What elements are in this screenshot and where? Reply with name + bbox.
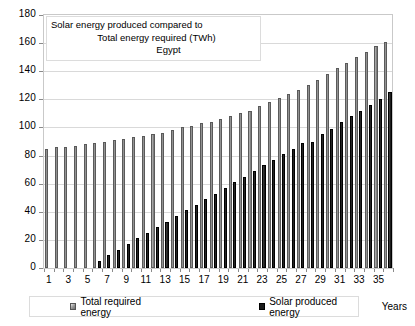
bar-group [296,15,306,268]
x-axis-tick-label: 9 [116,274,136,285]
x-axis-tick-mark [257,269,258,272]
bar-total-required-energy [374,46,377,268]
bar-solar-produced-energy [224,188,227,268]
bar-solar-produced-energy [117,250,120,268]
bar-total-required-energy [74,146,77,268]
x-axis-tick-mark [131,269,132,272]
bar-total-required-energy [122,139,125,268]
bar-total-required-energy [297,90,300,269]
bar-solar-produced-energy [243,177,246,268]
bar-group [267,15,277,268]
x-axis-tick-mark [325,269,326,272]
x-axis-tick-label: 23 [252,274,272,285]
bar-solar-produced-energy [330,129,333,268]
x-axis-tick-label: 11 [136,274,156,285]
y-axis-tick-mark [39,184,43,185]
chart-legend: Total required energy Solar produced ene… [29,296,359,317]
x-axis-tick-mark [296,269,297,272]
bar-total-required-energy [307,85,310,268]
bar-total-required-energy [336,68,339,268]
y-axis-tick-mark [39,71,43,72]
bar-solar-produced-energy [195,205,198,268]
bar-solar-produced-energy [350,116,353,268]
y-axis-tick-label: 180 [2,9,36,19]
bar-total-required-energy [161,133,164,268]
x-axis-tick-label: 31 [330,274,350,285]
x-axis-tick-mark [354,269,355,272]
x-axis-tick-mark [209,269,210,272]
bar-total-required-energy [45,149,48,268]
bar-total-required-energy [64,147,67,268]
bar-total-required-energy [316,80,319,268]
bar-total-required-energy [239,113,242,268]
x-axis-tick-mark [160,269,161,272]
x-axis-tick-label: 19 [213,274,233,285]
x-axis-tick-label: 27 [291,274,311,285]
bar-solar-produced-energy [156,227,159,268]
bar-group [354,15,364,268]
x-axis-tick-mark [54,269,55,272]
bar-total-required-energy [210,122,213,268]
x-axis-tick-mark [180,269,181,272]
y-axis-tick-label: 160 [2,37,36,47]
bar-total-required-energy [248,111,251,268]
x-axis-tick-mark [44,269,45,272]
bar-solar-produced-energy [175,216,178,268]
bar-total-required-energy [132,137,135,268]
bar-solar-produced-energy [321,134,324,268]
y-axis-tick-label: 20 [2,234,36,244]
y-axis-tick-mark [39,99,43,100]
x-axis-tick-mark [228,269,229,272]
y-axis-tick-mark [39,240,43,241]
bar-group [383,15,393,268]
x-axis-tick-mark [335,269,336,272]
bar-total-required-energy [278,98,281,268]
y-axis-tick-label: 120 [2,93,36,103]
bar-solar-produced-energy [282,154,285,268]
x-axis-tick-label: 13 [155,274,175,285]
bar-solar-produced-energy [98,261,101,268]
y-axis-tick-label: 80 [2,150,36,160]
bar-solar-produced-energy [165,222,168,268]
x-axis-tick-mark [306,269,307,272]
x-axis-tick-label: 5 [78,274,98,285]
y-axis-tick-mark [39,156,43,157]
x-axis-tick-mark [267,269,268,272]
bar-total-required-energy [229,116,232,268]
bar-solar-produced-energy [311,142,314,269]
x-axis-tick-label: 35 [368,274,388,285]
x-axis-tick-mark [151,269,152,272]
bar-solar-produced-energy [136,238,139,268]
bar-group [345,15,355,268]
x-axis-tick-mark [393,269,394,272]
legend-label-total-required-energy: Total required energy [80,296,162,318]
bar-solar-produced-energy [388,92,391,268]
x-axis-title: Years [382,301,407,312]
bar-total-required-energy [171,130,174,268]
chart-title-line-1: Solar energy produced compared to [51,19,256,32]
x-axis-tick-mark [374,269,375,272]
bar-group [374,15,384,268]
bar-group [277,15,287,268]
bar-group [315,15,325,268]
bar-solar-produced-energy [262,165,265,268]
x-axis-tick-mark [286,269,287,272]
y-axis-tick-mark [39,127,43,128]
x-axis-tick-mark [112,269,113,272]
y-axis-tick-label: 100 [2,121,36,131]
x-axis-tick-mark [73,269,74,272]
bar-solar-produced-energy [233,182,236,268]
x-axis-tick-mark [345,269,346,272]
bar-solar-produced-energy [107,255,110,268]
bar-total-required-energy [345,63,348,268]
bar-total-required-energy [355,57,358,268]
y-axis-tick-mark [39,43,43,44]
bar-total-required-energy [384,42,387,268]
chart-container: 020406080100120140160180 135791113151719… [0,0,415,326]
x-axis-tick-mark [83,269,84,272]
y-axis-tick-label: 140 [2,65,36,75]
x-axis-tick-label: 15 [175,274,195,285]
x-axis-tick-label: 7 [97,274,117,285]
bar-solar-produced-energy [253,171,256,268]
x-axis-tick-label: 17 [194,274,214,285]
